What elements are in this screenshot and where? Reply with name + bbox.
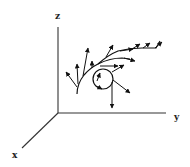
- z-axis-label: z: [55, 11, 60, 21]
- y-axis-label: y: [173, 112, 180, 122]
- main-curve: [77, 41, 160, 94]
- curve-with-vectors: [66, 41, 162, 94]
- x-axis-label: x: [12, 150, 18, 160]
- x-axis: [22, 113, 58, 148]
- vector-arrow: [143, 43, 150, 48]
- vector-arrow: [77, 64, 78, 84]
- vector-field-diagram: z y x: [0, 0, 190, 167]
- loop-with-vectors: [93, 69, 130, 108]
- branch-curve: [98, 58, 130, 64]
- vector-arrow: [97, 73, 100, 81]
- vector-arrow: [113, 80, 130, 93]
- vector-arrow: [66, 72, 77, 87]
